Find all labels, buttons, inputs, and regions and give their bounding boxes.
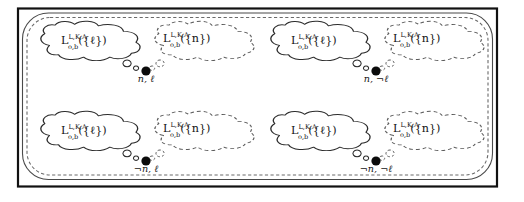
thought-bubble-tail-dashed	[149, 60, 164, 70]
bubble-group-bottom-right: LL,K,Ao,b({ℓ}) LL,K,Ao,b({n}) ¬n, ¬ℓ	[271, 111, 484, 174]
thought-bubble-tail-solid	[123, 150, 139, 160]
thought-bubble-tail-solid	[123, 60, 139, 70]
bubble-group-bottom-left: LL,K,Ao,b({ℓ}) LL,K,Ao,b({n}) ¬n, ℓ	[41, 111, 254, 174]
thought-bubble-tail-solid	[353, 150, 369, 160]
thought-bubble-tail-dashed	[149, 150, 164, 160]
world-node-label: ¬n, ¬ℓ	[360, 163, 392, 174]
diagram-canvas: LL,K,Ao,b({ℓ}) LL,K,Ao,b({n}) n, ℓ	[0, 0, 524, 202]
world-node-label: n, ℓ	[138, 73, 154, 84]
thought-bubble-tail-dashed	[379, 60, 394, 70]
bubble-group-top-right: LL,K,Ao,b({ℓ}) LL,K,Ao,b({n}) n, ¬ℓ	[271, 21, 484, 84]
thought-bubble-tail-solid	[353, 60, 369, 70]
world-node-label: n, ¬ℓ	[364, 73, 388, 84]
bubble-group-top-left: LL,K,Ao,b({ℓ}) LL,K,Ao,b({n}) n, ℓ	[41, 21, 254, 84]
thought-bubble-tail-dashed	[379, 150, 394, 160]
world-node-label: ¬n, ℓ	[134, 163, 158, 174]
thought-bubble-diagram: LL,K,Ao,b({ℓ}) LL,K,Ao,b({n}) n, ℓ	[0, 0, 524, 202]
